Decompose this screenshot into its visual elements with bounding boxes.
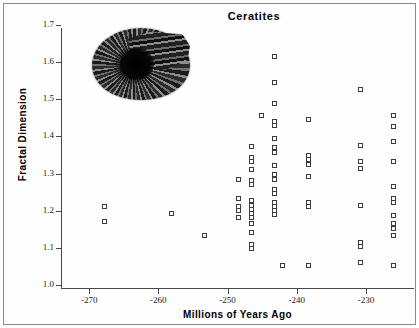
scatter-point bbox=[358, 143, 363, 148]
scatter-point bbox=[272, 163, 277, 168]
scatter-point bbox=[391, 233, 396, 238]
scatter-point bbox=[272, 80, 277, 85]
scatter-point bbox=[272, 191, 277, 196]
x-tick-label: -240 bbox=[277, 295, 317, 305]
scatter-point bbox=[358, 260, 363, 265]
x-tick-label: -250 bbox=[208, 295, 248, 305]
scatter-point bbox=[280, 263, 285, 268]
scatter-point bbox=[249, 159, 254, 164]
scatter-point bbox=[249, 215, 254, 220]
scatter-point bbox=[358, 244, 363, 249]
scatter-point bbox=[391, 159, 396, 164]
scatter-point bbox=[391, 263, 396, 268]
scatter-point bbox=[306, 117, 311, 122]
scatter-point bbox=[249, 144, 254, 149]
scatter-point bbox=[249, 221, 254, 226]
scatter-point bbox=[249, 167, 254, 172]
chart-title: Ceratites bbox=[194, 10, 314, 22]
scatter-point bbox=[391, 124, 396, 129]
scatter-point bbox=[259, 113, 264, 118]
x-tick bbox=[366, 289, 367, 294]
y-tick-label-text: 1.5 bbox=[43, 93, 54, 103]
y-tick-label-text: 1.1 bbox=[43, 242, 54, 252]
x-tick bbox=[89, 289, 90, 294]
x-tick-label: -270 bbox=[69, 295, 109, 305]
scatter-point bbox=[272, 101, 277, 106]
scatter-point bbox=[236, 215, 241, 220]
scatter-point bbox=[391, 113, 396, 118]
scatter-point bbox=[358, 87, 363, 92]
scatter-point bbox=[272, 177, 277, 182]
x-axis-label: Millions of Years Ago bbox=[61, 309, 414, 320]
scatter-point bbox=[102, 204, 107, 209]
scatter-point bbox=[306, 263, 311, 268]
scatter-point bbox=[102, 219, 107, 224]
scatter-point bbox=[236, 196, 241, 201]
scatter-point bbox=[391, 184, 396, 189]
x-axis-line bbox=[61, 288, 414, 289]
scatter-point bbox=[249, 230, 254, 235]
x-tick bbox=[228, 289, 229, 294]
y-tick-label-text: 1.2 bbox=[43, 205, 54, 215]
scatter-point bbox=[391, 213, 396, 218]
scatter-point bbox=[358, 203, 363, 208]
scatter-point bbox=[391, 200, 396, 205]
scatter-point bbox=[391, 139, 396, 144]
scatter-point bbox=[249, 182, 254, 187]
scatter-point bbox=[358, 166, 363, 171]
x-tick bbox=[158, 289, 159, 294]
y-tick-label-text: 1.3 bbox=[43, 168, 54, 178]
scatter-point bbox=[272, 136, 277, 141]
x-tick-label: -260 bbox=[138, 295, 178, 305]
scatter-point bbox=[272, 150, 277, 155]
scatter-point bbox=[169, 211, 174, 216]
x-tick bbox=[297, 289, 298, 294]
scatter-point bbox=[272, 123, 277, 128]
y-tick-label-text: 1.7 bbox=[43, 19, 54, 29]
figure-canvas: Ceratites 1.01.11.21.31.41.51.61.7 -270-… bbox=[0, 0, 419, 328]
y-tick-label-text: 1.6 bbox=[43, 56, 54, 66]
scatter-point bbox=[236, 208, 241, 213]
figure-frame: Ceratites 1.01.11.21.31.41.51.61.7 -270-… bbox=[3, 3, 416, 325]
scatter-point bbox=[358, 159, 363, 164]
scatter-point bbox=[306, 204, 311, 209]
scatter-point bbox=[236, 177, 241, 182]
scatter-point bbox=[272, 54, 277, 59]
y-axis-label: Fractal Dimension bbox=[17, 65, 28, 205]
scatter-point bbox=[272, 212, 277, 217]
y-tick bbox=[56, 25, 61, 26]
scatter-point bbox=[306, 174, 311, 179]
scatter-point bbox=[249, 246, 254, 251]
scatter-point bbox=[306, 162, 311, 167]
y-tick-label-text: 1.0 bbox=[43, 279, 54, 289]
scatter-point bbox=[202, 233, 207, 238]
x-tick-label: -230 bbox=[346, 295, 386, 305]
y-tick-label-text: 1.4 bbox=[43, 130, 54, 140]
scatter-point bbox=[391, 226, 396, 231]
